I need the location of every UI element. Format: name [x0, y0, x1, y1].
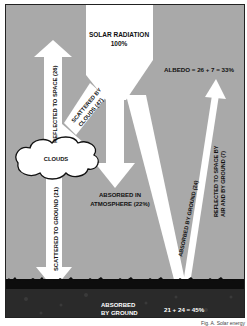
reflected-by-air-ground-label-1: REFLECTED TO SPACE BY [213, 145, 219, 217]
clouds-label: CLOUDS [44, 156, 69, 162]
absorbed-by-ground-label-1: ABSORBED [101, 302, 136, 308]
absorbed-in-atmosphere-label-2: ATMOSPHERE (22%) [90, 201, 150, 207]
solar-radiation-value: 100% [111, 40, 128, 47]
ground-sum-label: 21 + 24 = 45% [164, 306, 205, 313]
reflected-by-air-ground-label-2: AIR AND BY GROUND (7) [220, 151, 226, 217]
reflected-to-space-label: REFLECTED TO SPACE (26) [52, 66, 58, 143]
solar-radiation-title: SOLAR RADIATION [89, 31, 149, 38]
scattered-to-ground-label: SCATTERED TO GROUND (21) [53, 187, 59, 271]
albedo-label: ALBEDO = 26 + 7 = 33% [164, 66, 234, 73]
energy-budget-diagram: SOLAR RADIATION 100% ALBEDO = 26 + 7 = 3… [5, 4, 245, 318]
diagram-canvas: SOLAR RADIATION 100% ALBEDO = 26 + 7 = 3… [6, 5, 245, 318]
absorbed-by-ground-label-2: BY GROUND [101, 310, 138, 316]
absorbed-in-atmosphere-label-1: ABSORBED IN [99, 192, 141, 198]
figure-credit: Fig. A. Solar energy [201, 320, 245, 326]
